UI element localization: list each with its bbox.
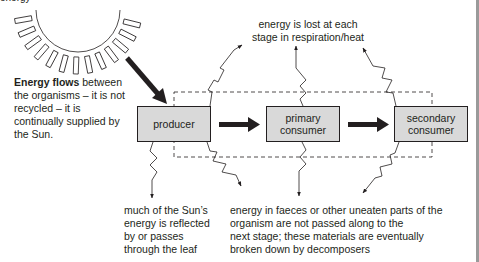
primary-consumer-box: primary consumer [266,106,340,142]
waste-arrow-primary [299,142,306,196]
sun-to-producer-arrow [127,58,167,104]
heat-loss-note-line1: energy is lost at each [248,18,368,31]
top-cut-label: energy [0,0,31,4]
decomposers-note-line4: broken down by decomposers [230,243,470,256]
heat-loss-note-line2: stage in respiration/heat [248,31,368,44]
reflected-note-line1: much of the Sun’s [124,204,224,217]
primary-to-secondary-arrow [348,117,389,132]
energy-flow-note: Energy flows between the organisms – it … [14,76,126,141]
reflected-note-line2: energy is reflected [124,217,224,230]
decomposers-note-line3: next stage; these materials are eventual… [230,230,470,243]
producer-label: producer [153,118,194,130]
decomposers-note: energy in faeces or other uneaten parts … [230,204,470,256]
waste-arrow-producer [207,142,241,186]
heat-loss-arrow-secondary [363,48,396,106]
heat-loss-arrow-producer [208,45,242,106]
secondary-consumer-box: secondary consumer [394,106,468,142]
reflected-energy-note: much of the Sun’s energy is reflected by… [124,204,224,256]
sun-icon [15,10,141,74]
producer-box: producer [137,106,211,142]
primary-consumer-label-line2: consumer [280,124,326,136]
waste-arrow-secondary [363,142,399,193]
heat-loss-note: energy is lost at each stage in respirat… [248,18,368,44]
energy-flow-note-bold: Energy flows [14,76,79,88]
reflected-arrow [150,142,157,198]
reflected-note-line3: by or passes [124,230,224,243]
secondary-consumer-label-line1: secondary [407,112,455,124]
decomposers-note-line1: energy in faeces or other uneaten parts … [230,204,470,217]
decomposers-note-line2: organism are not passed along to the [230,217,470,230]
reflected-note-line4: through the leaf [124,243,224,256]
secondary-consumer-label-line2: consumer [407,124,455,136]
heat-loss-arrow-primary [296,46,306,106]
primary-consumer-label-line1: primary [280,112,326,124]
producer-to-primary-arrow [219,117,260,132]
